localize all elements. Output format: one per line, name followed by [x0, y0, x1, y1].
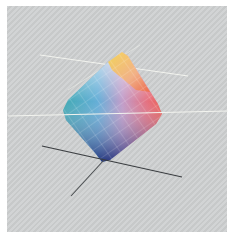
gamut-solid: [63, 52, 162, 162]
gamut-figure: [0, 0, 233, 239]
axis-dark-diagonal: [71, 160, 104, 196]
